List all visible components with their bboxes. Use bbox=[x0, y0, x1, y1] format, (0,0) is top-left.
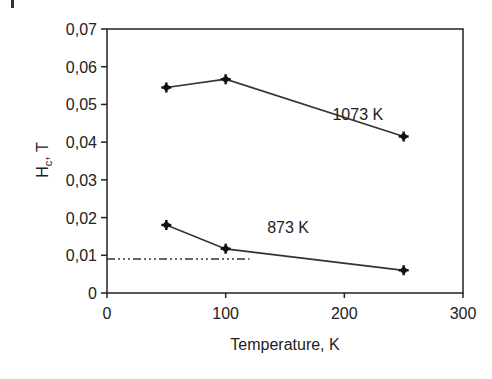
svg-text:Hc, T: Hc, T bbox=[34, 142, 54, 178]
x-axis-ticks: 0100200300 bbox=[103, 293, 477, 322]
x-tick-label: 0 bbox=[103, 305, 112, 322]
data-point bbox=[401, 267, 407, 273]
y-axis-ticks: 00,010,020,030,040,050,060,07 bbox=[66, 21, 107, 302]
data-point bbox=[223, 246, 229, 252]
y-tick-label: 0,01 bbox=[66, 247, 97, 264]
data-point bbox=[401, 133, 407, 139]
axes bbox=[107, 29, 463, 293]
corner-mark bbox=[11, 0, 14, 8]
y-tick-label: 0,06 bbox=[66, 59, 97, 76]
y-tick-label: 0 bbox=[88, 285, 97, 302]
x-tick-label: 100 bbox=[212, 305, 239, 322]
data-point bbox=[163, 222, 169, 228]
data-series bbox=[161, 74, 408, 275]
series-label: 1073 K bbox=[332, 106, 383, 123]
x-tick-label: 300 bbox=[450, 305, 477, 322]
y-tick-label: 0,04 bbox=[66, 134, 97, 151]
x-tick-label: 200 bbox=[331, 305, 358, 322]
series-label: 873 K bbox=[267, 219, 309, 236]
y-tick-label: 0,05 bbox=[66, 96, 97, 113]
y-tick-label: 0,02 bbox=[66, 210, 97, 227]
y-axis-label: Hc, T bbox=[34, 142, 54, 178]
y-tick-label: 0,03 bbox=[66, 172, 97, 189]
data-point bbox=[163, 84, 169, 90]
x-axis-label: Temperature, K bbox=[230, 336, 340, 353]
data-point bbox=[223, 76, 229, 82]
y-tick-label: 0,07 bbox=[66, 21, 97, 38]
coercivity-vs-temperature-chart: 00,010,020,030,040,050,060,07 0100200300… bbox=[0, 0, 492, 379]
